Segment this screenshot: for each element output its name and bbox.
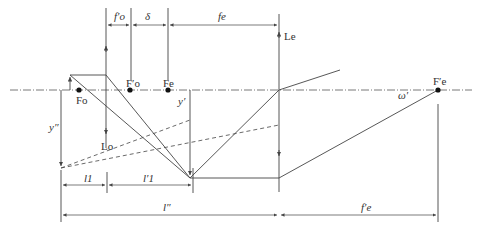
label-Fe-prime: F′e (433, 75, 447, 87)
optical-diagram: f′o δ fe Fo F′o Fe F′e Le Lo y′ y″ ω′ l1… (0, 0, 478, 231)
label-Fo-prime: F′o (126, 77, 141, 89)
label-l1: l1 (84, 172, 93, 184)
label-y-prime: y′ (177, 95, 186, 107)
ray-through-eyepiece-center (190, 70, 340, 178)
label-delta-dim: δ (145, 10, 151, 22)
label-Lo: Lo (101, 140, 114, 152)
ray-to-fe-prime (190, 90, 438, 178)
label-y-double-prime: y″ (48, 121, 59, 133)
label-Fo: Fo (76, 94, 88, 106)
label-l-double-prime: l″ (163, 201, 171, 213)
label-fe-dim: fe (218, 10, 226, 22)
label-Fe: Fe (163, 77, 174, 89)
virtual-ray-2 (61, 125, 279, 168)
label-fe-prime-dim: f′e (361, 201, 371, 213)
label-l1-prime: l′1 (143, 172, 154, 184)
label-omega-prime: ω′ (398, 89, 409, 101)
focal-point-fo (76, 87, 81, 92)
label-Le: Le (284, 30, 296, 42)
label-fo-prime-dim: f′o (114, 10, 125, 22)
focal-point-fe-prime (435, 87, 440, 92)
